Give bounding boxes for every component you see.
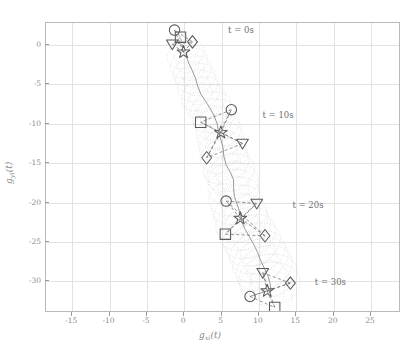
trajectory-line (186, 55, 271, 291)
x-tick-label: 5 (218, 316, 223, 325)
time-annotation: t = 10s (262, 110, 293, 120)
y-tick-label: -5 (34, 79, 41, 88)
formation-link-outer (207, 144, 243, 158)
x-axis-label-tail: (t) (210, 330, 221, 340)
y-tick-label: 0 (36, 40, 41, 49)
agent-markers (166, 25, 295, 312)
y-tick-label: -15 (29, 158, 41, 167)
y-axis-label-tail: (t) (4, 162, 14, 173)
y-tick-mark (45, 123, 49, 124)
y-tick-mark (45, 241, 49, 242)
y-axis-label-text: g (4, 178, 14, 184)
y-axis-label: gyi(t) (4, 143, 16, 203)
y-tick-label: -30 (29, 276, 41, 285)
x-axis-label: gxi(t) (0, 330, 420, 342)
x-tick-label: -15 (65, 316, 77, 325)
plot-overlay (46, 23, 400, 312)
figure-root: -15-10-50510152025 0-5-10-15-20-25-30 t … (0, 0, 420, 353)
trajectory-polyline (186, 55, 271, 291)
uncertainty-ellipse (249, 260, 292, 312)
uncertainty-ellipses (163, 35, 302, 312)
time-annotation: t = 30s (315, 277, 346, 287)
y-tick-mark (45, 202, 49, 203)
x-tick-label: 0 (181, 316, 186, 325)
y-axis-label-sub: y (8, 174, 16, 178)
y-tick-label: -10 (29, 118, 41, 127)
formation-link-outer (201, 122, 243, 143)
x-tick-label: 10 (253, 316, 263, 325)
y-tick-mark (45, 44, 49, 45)
y-tick-label: -25 (29, 237, 41, 246)
y-tick-mark (45, 83, 49, 84)
y-tick-label: -20 (29, 197, 41, 206)
time-annotation: t = 0s (228, 25, 254, 35)
y-tick-mark (45, 162, 49, 163)
x-tick-label: 25 (365, 316, 375, 325)
plot-frame (45, 22, 400, 312)
x-tick-label: -5 (142, 316, 149, 325)
x-tick-label: 20 (328, 316, 338, 325)
y-tick-mark (45, 280, 49, 281)
x-tick-label: -10 (102, 316, 114, 325)
x-tick-label: 15 (291, 316, 301, 325)
time-annotation: t = 20s (292, 200, 323, 210)
marker-triangle-down (166, 40, 178, 50)
